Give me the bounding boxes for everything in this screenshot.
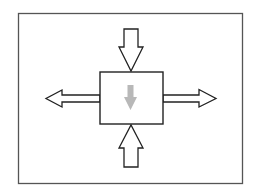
- diagram-canvas: [0, 0, 253, 190]
- diagram-svg: [0, 0, 253, 190]
